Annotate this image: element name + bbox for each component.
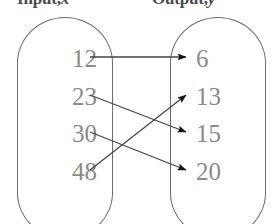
mapping-arrow-30-to-20 xyxy=(90,132,186,170)
mapping-diagram: Input,x Output,y 12 23 30 48 6 13 15 20 xyxy=(0,0,272,224)
mapping-arrows xyxy=(0,0,272,224)
mapping-arrow-48-to-13 xyxy=(90,95,186,170)
mapping-arrow-23-to-15 xyxy=(90,95,186,132)
